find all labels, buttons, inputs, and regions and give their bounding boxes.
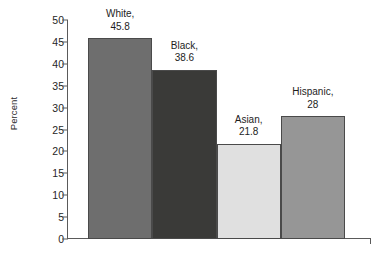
bar-chart: Percent 50454035302520151050 White,45.8B…	[0, 0, 382, 253]
bar-asian	[217, 144, 281, 239]
bar-label-hispanic: Hispanic,28	[292, 86, 333, 111]
plot-area	[67, 20, 371, 239]
y-axis-tick-label: 35	[20, 80, 64, 92]
bar-label-value: 45.8	[106, 21, 134, 34]
bar-hispanic	[281, 116, 345, 239]
bar-white	[88, 38, 152, 239]
bar-black	[152, 70, 216, 239]
bar-label-name: Asian,	[235, 114, 263, 127]
y-axis-tick-label: 10	[20, 189, 64, 201]
bar-label-value: 21.8	[235, 126, 263, 139]
y-axis-tick-label: 50	[20, 14, 64, 26]
y-axis-title: Percent	[8, 84, 19, 144]
bar-label-value: 38.6	[171, 52, 198, 65]
bar-label-name: White,	[106, 8, 134, 21]
bar-label-white: White,45.8	[106, 8, 134, 33]
y-axis-tick-label: 45	[20, 36, 64, 48]
y-axis-tick-label: 15	[20, 167, 64, 179]
bar-label-name: Black,	[171, 40, 198, 53]
y-axis-tick-label: 30	[20, 102, 64, 114]
bar-label-black: Black,38.6	[171, 40, 198, 65]
y-axis-tick-label: 25	[20, 124, 64, 136]
bar-label-name: Hispanic,	[292, 86, 333, 99]
y-axis-tick-label: 40	[20, 58, 64, 70]
bar-label-asian: Asian,21.8	[235, 114, 263, 139]
y-axis-tick-label: 20	[20, 145, 64, 157]
y-axis-tick-label: 5	[20, 211, 64, 223]
bar-label-value: 28	[292, 99, 333, 112]
y-axis-tick-label: 0	[20, 233, 64, 245]
